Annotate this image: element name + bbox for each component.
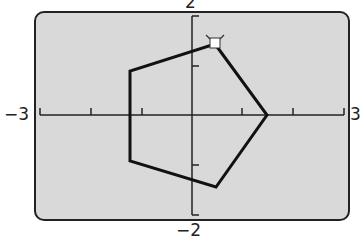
x-max-label: 3 — [350, 106, 361, 123]
y-max-label: 2 — [185, 0, 196, 11]
x-min-label: −3 — [4, 106, 29, 123]
plot-area — [0, 0, 362, 240]
y-min-label: −2 — [176, 222, 201, 239]
